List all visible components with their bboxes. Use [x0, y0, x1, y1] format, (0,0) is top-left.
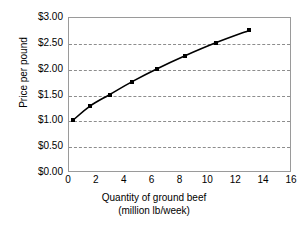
gridline-y: [69, 96, 290, 97]
data-point-marker: [130, 80, 134, 84]
x-tick-label: 2: [86, 174, 106, 185]
y-tick-label: $3.00: [23, 11, 63, 22]
data-point-marker: [155, 67, 159, 71]
x-tick-label: 10: [197, 174, 217, 185]
x-tick-label: 14: [253, 174, 273, 185]
x-tick-label: 8: [170, 174, 190, 185]
plot-area: [68, 17, 291, 172]
x-tick-label: 16: [281, 174, 301, 185]
data-point-marker: [71, 118, 75, 122]
gridline-y: [69, 70, 290, 71]
y-tick-label: $0.50: [23, 140, 63, 151]
data-point-marker: [183, 54, 187, 58]
x-axis-title-line1: Quantity of ground beef: [0, 191, 308, 204]
x-axis-title: Quantity of ground beef (million lb/week…: [0, 191, 308, 217]
gridline-y: [69, 121, 290, 122]
y-tick-label: $2.00: [23, 63, 63, 74]
y-tick-label: $1.50: [23, 89, 63, 100]
x-tick-label: 4: [114, 174, 134, 185]
gridline-y: [69, 44, 290, 45]
x-axis-title-line2: (million lb/week): [0, 204, 308, 217]
x-tick-label: 0: [58, 174, 78, 185]
gridline-y: [69, 147, 290, 148]
data-point-marker: [88, 104, 92, 108]
chart-screenshot: Price per pound $0.00$0.50$1.00$1.50$2.0…: [0, 0, 308, 229]
data-point-marker: [108, 93, 112, 97]
data-point-marker: [214, 41, 218, 45]
x-tick-label: 12: [225, 174, 245, 185]
y-tick-label: $1.00: [23, 114, 63, 125]
x-tick-label: 6: [142, 174, 162, 185]
y-tick-label: $0.00: [23, 166, 63, 177]
y-tick-label: $2.50: [23, 37, 63, 48]
data-point-marker: [247, 28, 251, 32]
